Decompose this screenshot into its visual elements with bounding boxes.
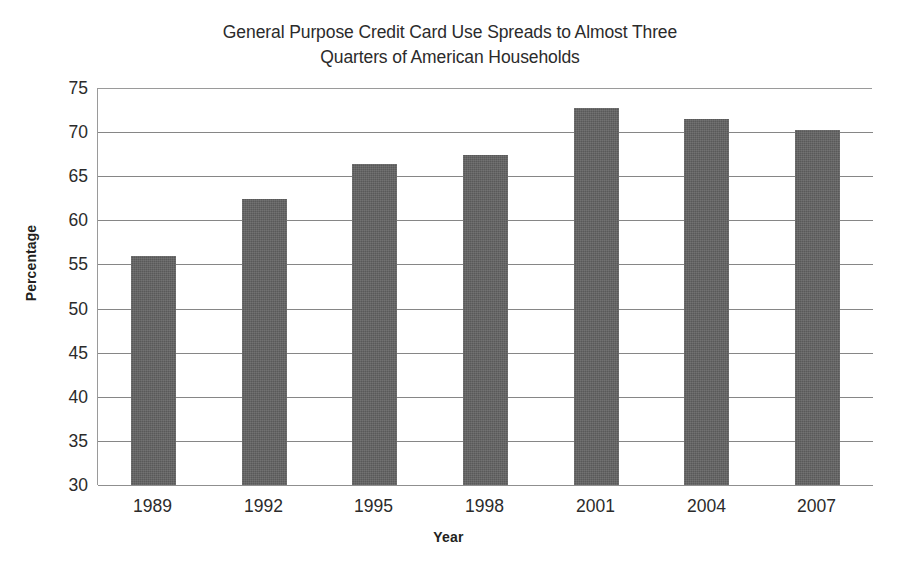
bar-chart-figure: General Purpose Credit Card Use Spreads … bbox=[0, 0, 897, 579]
bar-1998 bbox=[463, 155, 508, 485]
gridline-70 bbox=[98, 132, 873, 133]
x-tick-label-2001: 2001 bbox=[540, 495, 651, 517]
x-tick-label-2007: 2007 bbox=[761, 495, 872, 517]
y-axis-title: Percentage bbox=[23, 213, 39, 313]
plot-area bbox=[97, 88, 872, 485]
bar-2004 bbox=[684, 119, 729, 485]
bar-2007 bbox=[795, 130, 840, 485]
x-axis-tick-labels: 1989199219951998200120042007 bbox=[97, 495, 872, 521]
bar-2001 bbox=[574, 108, 619, 485]
x-tick-label-1995: 1995 bbox=[318, 495, 429, 517]
y-tick-label: 55 bbox=[48, 255, 88, 274]
x-tick-label-1992: 1992 bbox=[208, 495, 319, 517]
x-tick-label-1989: 1989 bbox=[97, 495, 208, 517]
y-tick-label: 30 bbox=[48, 476, 88, 495]
x-tick-label-2004: 2004 bbox=[651, 495, 762, 517]
x-axis-title: Year bbox=[0, 529, 897, 545]
bar-1992 bbox=[242, 199, 287, 485]
bar-1995 bbox=[352, 164, 397, 485]
gridline-30 bbox=[98, 485, 873, 486]
y-tick-label: 60 bbox=[48, 211, 88, 230]
chart-title: General Purpose Credit Card Use Spreads … bbox=[150, 20, 750, 70]
y-axis-tick-labels: 30354045505560657075 bbox=[42, 88, 88, 485]
y-tick-label: 50 bbox=[48, 300, 88, 319]
y-tick-label: 65 bbox=[48, 167, 88, 186]
y-tick-label: 70 bbox=[48, 123, 88, 142]
y-tick-label: 40 bbox=[48, 388, 88, 407]
y-tick-label: 75 bbox=[48, 79, 88, 98]
bar-1989 bbox=[131, 256, 176, 485]
y-tick-label: 45 bbox=[48, 344, 88, 363]
y-tick-label: 35 bbox=[48, 432, 88, 451]
x-tick-label-1998: 1998 bbox=[429, 495, 540, 517]
